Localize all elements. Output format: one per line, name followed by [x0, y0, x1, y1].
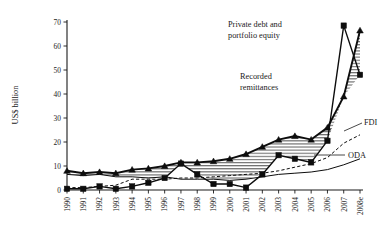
private-debt-label-line2: portfolio equity [228, 31, 281, 40]
x-tick-label: 1990 [63, 197, 72, 212]
x-tick-label: 1998 [193, 197, 202, 212]
x-tick-label: 2004 [291, 197, 300, 212]
x-tick-label: 2008e [356, 196, 365, 215]
recorded-remittances-label-line2: remittances [240, 83, 278, 92]
data-point-marker [129, 184, 134, 189]
y-tick-label: 50 [54, 66, 62, 75]
x-tick-label: 1991 [79, 197, 88, 212]
data-point-marker [341, 23, 346, 28]
x-tick-label: 2002 [258, 197, 267, 212]
x-tick-label: 2001 [242, 197, 251, 212]
data-point-marker [276, 153, 281, 158]
x-tick-label: 1999 [209, 197, 218, 212]
data-point-marker [81, 186, 86, 191]
chart-figure: 010203040506070 199019911992199319941995… [0, 0, 389, 239]
y-tick-label: 0 [57, 186, 61, 195]
x-tick-label: 1994 [128, 197, 137, 212]
y-tick-label: 40 [54, 90, 62, 99]
x-tick-label: 1996 [160, 197, 169, 212]
data-point-marker [195, 172, 200, 177]
data-point-marker [178, 161, 183, 166]
data-point-marker [325, 138, 330, 143]
x-tick-label: 2003 [274, 197, 283, 212]
y-tick-label: 70 [54, 18, 62, 27]
x-tick-label: 2006 [323, 197, 332, 212]
chart-canvas: 010203040506070 199019911992199319941995… [0, 0, 389, 239]
x-tick-label: 2000 [226, 197, 235, 212]
x-tick-label: 1993 [112, 197, 121, 212]
x-tick-label: 1997 [177, 197, 186, 212]
oda-label: ODA [348, 151, 366, 160]
y-axis-title: US$ billion [11, 85, 20, 125]
data-point-marker [357, 72, 362, 77]
x-tick-label: 1995 [144, 197, 153, 212]
x-tick-label: 2007 [340, 197, 349, 212]
y-tick-label: 60 [54, 42, 62, 51]
data-point-marker [227, 181, 232, 186]
recorded-remittances-label-line1: Recorded [240, 72, 273, 81]
data-point-marker [146, 180, 151, 185]
data-point-marker [211, 181, 216, 186]
x-tick-label: 2005 [307, 197, 316, 212]
fdi-label: FDI [364, 118, 378, 127]
y-tick-label: 30 [54, 114, 62, 123]
data-point-marker [162, 175, 167, 180]
private-debt-label-line1: Private debt and [228, 20, 283, 29]
x-tick-label: 1992 [95, 197, 104, 212]
data-point-marker [292, 156, 297, 161]
data-point-marker [243, 185, 248, 190]
data-point-marker [113, 186, 118, 191]
y-tick-label: 20 [54, 138, 62, 147]
data-point-marker [64, 186, 69, 191]
y-tick-label: 10 [54, 162, 62, 171]
